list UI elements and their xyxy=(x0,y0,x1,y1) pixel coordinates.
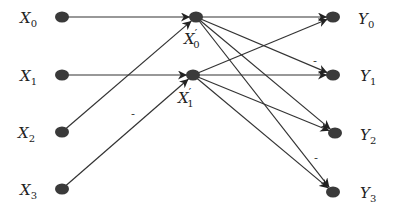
node-x3 xyxy=(55,184,69,195)
edge-xp0-to-y1 xyxy=(196,17,327,73)
edge-xp0-to-y3 xyxy=(196,17,329,187)
node-label-x0: X0 xyxy=(19,9,37,29)
node-label-xp1: X′1 xyxy=(177,86,194,109)
node-xp0 xyxy=(189,12,203,23)
minus-sign-label: - xyxy=(131,107,135,120)
edge-xp0-to-y2 xyxy=(196,17,330,129)
node-label-x1: X1 xyxy=(19,67,37,87)
node-xp1 xyxy=(186,70,200,81)
signal-flow-graph: --- X0X1X2X3X′0X′1Y0Y1Y2Y3 xyxy=(0,0,402,212)
node-labels-layer: X0X1X2X3X′0X′1Y0Y1Y2Y3 xyxy=(17,9,376,204)
node-label-y1: Y1 xyxy=(360,67,376,87)
node-x1 xyxy=(55,70,69,81)
node-y0 xyxy=(326,12,340,23)
edge-x2-to-xp0 xyxy=(62,21,191,132)
node-label-xp0: X′0 xyxy=(183,27,200,50)
minus-sign-label: - xyxy=(314,151,318,164)
node-label-y2: Y2 xyxy=(360,126,376,146)
node-label-x3: X3 xyxy=(19,181,37,201)
edge-xp1-to-y0 xyxy=(193,19,327,75)
node-y2 xyxy=(328,128,342,139)
node-label-y0: Y0 xyxy=(358,10,374,30)
node-label-y3: Y3 xyxy=(360,184,376,204)
node-x0 xyxy=(55,12,69,23)
node-y3 xyxy=(326,187,340,198)
node-label-x2: X2 xyxy=(17,124,35,144)
edge-xp1-to-y2 xyxy=(193,75,329,131)
sign-labels-layer: --- xyxy=(131,54,318,164)
node-y1 xyxy=(326,70,340,81)
edge-xp1-to-y3 xyxy=(193,75,328,188)
edge-x3-to-xp1 xyxy=(62,79,188,189)
minus-sign-label: - xyxy=(313,54,317,67)
node-x2 xyxy=(55,127,69,138)
